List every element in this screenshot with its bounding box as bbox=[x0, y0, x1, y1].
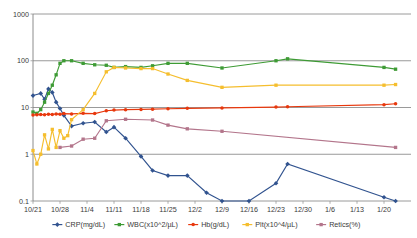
data-point bbox=[81, 112, 85, 116]
data-point bbox=[186, 79, 189, 82]
data-point bbox=[124, 108, 128, 112]
x-tick-label: 12/30 bbox=[294, 205, 312, 214]
data-point bbox=[139, 108, 143, 112]
legend-item-hb-g-dl-[interactable]: Hb(g/dL) bbox=[188, 220, 229, 229]
data-point bbox=[62, 137, 65, 140]
y-tick-label: 10 bbox=[21, 103, 29, 112]
legend-label: Hb(g/dL) bbox=[201, 220, 229, 229]
data-point bbox=[151, 67, 154, 70]
data-point bbox=[382, 84, 385, 87]
data-point bbox=[58, 146, 61, 149]
data-point bbox=[124, 66, 127, 69]
data-point bbox=[105, 70, 108, 73]
data-point bbox=[58, 112, 62, 116]
data-point bbox=[105, 64, 108, 67]
x-tick-label: 11/18 bbox=[132, 205, 149, 214]
data-point bbox=[51, 128, 54, 131]
data-point bbox=[51, 84, 54, 87]
series-plt-x10-4-l- bbox=[31, 66, 397, 166]
legend-marker bbox=[319, 223, 322, 226]
data-point bbox=[93, 112, 97, 116]
data-point bbox=[166, 72, 169, 75]
series-line bbox=[33, 67, 396, 164]
data-point bbox=[220, 66, 223, 69]
data-point bbox=[151, 118, 154, 121]
legend-item-retics-[interactable]: Retics(%) bbox=[316, 220, 360, 229]
data-point bbox=[139, 67, 142, 70]
data-point bbox=[112, 108, 116, 112]
data-point bbox=[54, 146, 57, 149]
legend-label: Plt(x10^4/µL) bbox=[255, 220, 297, 229]
legend-item-wbc-x10-2-l-[interactable]: WBC(x10^2/µL) bbox=[114, 220, 178, 229]
data-point bbox=[81, 62, 84, 65]
data-point bbox=[39, 113, 43, 117]
data-point bbox=[47, 92, 50, 95]
data-point bbox=[51, 113, 55, 117]
data-point bbox=[31, 93, 36, 98]
legend-label: WBC(x10^2/µL) bbox=[127, 220, 178, 229]
series-line bbox=[33, 104, 396, 115]
data-point bbox=[382, 66, 385, 69]
data-point bbox=[62, 59, 65, 62]
data-point bbox=[70, 112, 74, 116]
data-point bbox=[93, 92, 96, 95]
data-point bbox=[220, 106, 224, 110]
data-point bbox=[112, 66, 115, 69]
data-point bbox=[54, 112, 58, 116]
data-point bbox=[47, 112, 51, 116]
data-point bbox=[47, 147, 50, 150]
data-point bbox=[43, 113, 47, 117]
data-point bbox=[274, 84, 277, 87]
data-point bbox=[70, 118, 73, 121]
x-tick-label: 11/11 bbox=[106, 205, 123, 214]
series-layer bbox=[31, 57, 398, 203]
data-point bbox=[81, 138, 84, 141]
x-tick-label: 11/4 bbox=[80, 205, 93, 214]
data-point bbox=[39, 153, 42, 156]
legend-label: CRP(mg/dL) bbox=[65, 220, 105, 229]
y-tick-label: 100 bbox=[17, 56, 29, 65]
data-point bbox=[394, 146, 397, 149]
data-point bbox=[220, 199, 225, 204]
data-point bbox=[286, 57, 289, 60]
series-line bbox=[60, 119, 396, 147]
data-point bbox=[394, 102, 398, 106]
legend-marker bbox=[191, 223, 195, 227]
data-point bbox=[58, 129, 61, 132]
data-point bbox=[151, 107, 155, 111]
x-tick-label: 1/6 bbox=[325, 205, 335, 214]
y-tick-label: 1000 bbox=[13, 10, 29, 19]
data-point bbox=[166, 123, 169, 126]
data-point bbox=[166, 62, 169, 65]
legend-item-crp-mg-dl-[interactable]: CRP(mg/dL) bbox=[52, 220, 105, 229]
legend-item-plt-x10-4-l-[interactable]: Plt(x10^4/µL) bbox=[242, 220, 297, 229]
data-point bbox=[220, 130, 223, 133]
data-point bbox=[274, 105, 278, 109]
lab-values-chart: 10001001010.1 10/2110/2811/411/1111/1811… bbox=[0, 0, 417, 238]
data-point bbox=[43, 133, 46, 136]
y-tick-label: 1 bbox=[25, 150, 29, 159]
data-point bbox=[186, 107, 190, 111]
x-tick-label: 12/16 bbox=[240, 205, 258, 214]
data-point bbox=[31, 149, 34, 152]
data-point bbox=[166, 107, 170, 111]
data-point bbox=[31, 110, 34, 113]
series-retics- bbox=[58, 118, 397, 149]
data-point bbox=[81, 121, 86, 126]
x-tick-label: 10/28 bbox=[51, 205, 69, 214]
x-tick-label: 1/13 bbox=[350, 205, 364, 214]
data-point bbox=[166, 173, 171, 178]
data-point bbox=[382, 195, 387, 200]
data-point bbox=[274, 59, 277, 62]
data-point bbox=[43, 101, 46, 104]
data-point bbox=[66, 134, 69, 137]
data-point bbox=[39, 108, 42, 111]
data-point bbox=[70, 59, 73, 62]
data-point bbox=[186, 62, 189, 65]
data-point bbox=[70, 144, 73, 147]
data-point bbox=[220, 86, 223, 89]
x-tick-label: 10/21 bbox=[24, 205, 42, 214]
legend-marker bbox=[118, 223, 121, 226]
data-point bbox=[105, 109, 109, 113]
x-tick-label: 11/25 bbox=[159, 205, 176, 214]
